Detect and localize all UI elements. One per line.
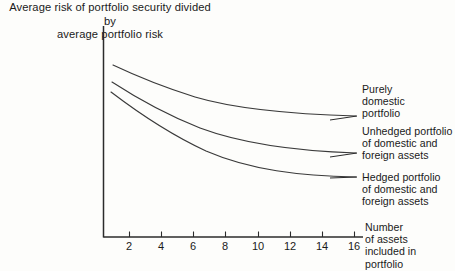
annotation-purely-domestic-line-2: domestic bbox=[362, 95, 405, 107]
annotation-hedged-line-2: of domestic and bbox=[362, 183, 441, 195]
x-tick-label-6: 6 bbox=[182, 241, 204, 252]
leader-line-unhedged bbox=[330, 153, 357, 157]
x-tick-label-14: 14 bbox=[311, 241, 333, 252]
annotation-unhedged-line-2: of domestic and bbox=[362, 137, 452, 149]
chart-figure: Average risk of portfolio security divid… bbox=[0, 0, 455, 271]
annotation-unhedged-line-1: Unhedged portfolio bbox=[362, 125, 452, 137]
x-tick-label-10: 10 bbox=[247, 241, 269, 252]
annotation-hedged-line-3: foreign assets bbox=[362, 195, 441, 207]
annotation-purely-domestic: Purely domestic portfolio bbox=[362, 83, 405, 120]
x-tick-label-4: 4 bbox=[150, 241, 172, 252]
x-axis-label-line-4: portfolio bbox=[365, 258, 416, 270]
x-axis-label-line-2: of assets bbox=[365, 233, 416, 245]
x-axis-label-line-3: included in bbox=[365, 245, 416, 257]
x-tick-label-2: 2 bbox=[118, 241, 140, 252]
x-tick-label-12: 12 bbox=[279, 241, 301, 252]
annotation-purely-domestic-line-1: Purely bbox=[362, 83, 405, 95]
annotation-hedged: Hedged portfolio of domestic and foreign… bbox=[362, 171, 441, 208]
annotation-unhedged-line-3: foreign assets bbox=[362, 149, 452, 161]
annotation-purely-domestic-line-3: portfolio bbox=[362, 107, 405, 119]
curve-hedged bbox=[111, 92, 356, 177]
leader-line-purely-domestic bbox=[330, 116, 357, 120]
annotation-unhedged: Unhedged portfolio of domestic and forei… bbox=[362, 125, 452, 162]
curve-purely-domestic bbox=[113, 65, 356, 116]
leader-line-hedged bbox=[330, 177, 357, 178]
annotation-hedged-line-1: Hedged portfolio bbox=[362, 171, 441, 183]
x-axis-label-line-1: Number bbox=[365, 221, 416, 233]
x-tick-label-16: 16 bbox=[343, 241, 365, 252]
x-axis-ticks bbox=[130, 232, 355, 238]
x-axis-label: Number of assets included in portfolio bbox=[365, 221, 416, 270]
curve-unhedged bbox=[112, 82, 356, 153]
x-tick-label-8: 8 bbox=[214, 241, 236, 252]
